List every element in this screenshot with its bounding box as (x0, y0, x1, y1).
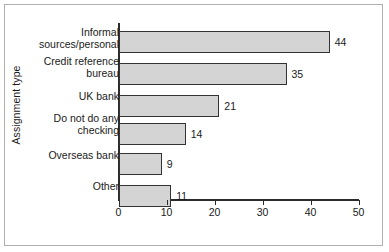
x-axis-tick-label: 40 (296, 206, 326, 218)
bar (119, 63, 287, 85)
bar-value-label: 35 (292, 63, 304, 85)
bar (119, 153, 162, 175)
x-axis-tick-label: 30 (248, 206, 278, 218)
bar-value-label: 14 (191, 123, 203, 145)
x-axis-tick (263, 200, 264, 205)
category-label: Overseas bank (9, 150, 119, 162)
bar (119, 95, 220, 117)
bar (119, 31, 330, 53)
bar (119, 185, 172, 207)
x-axis-tick-label: 20 (200, 206, 230, 218)
x-axis-tick (311, 200, 312, 205)
x-axis-tick-label: 50 (344, 206, 374, 218)
bar-value-label: 9 (167, 153, 173, 175)
x-axis-tick (215, 200, 216, 205)
category-label: UK bank (9, 91, 119, 103)
plot-area: Informal sources/personal 44 Credit refe… (5, 5, 384, 245)
bar-value-label: 21 (224, 95, 236, 117)
category-label: Informal sources/personal (9, 27, 119, 50)
bar-value-label: 11 (176, 185, 187, 207)
category-label: Credit reference bureau (9, 56, 119, 79)
category-label: Do not do any checking (9, 113, 119, 136)
bar (119, 123, 186, 145)
x-axis-tick-label: 10 (152, 206, 182, 218)
chart-figure-frame: Assignment type Informal sources/persona… (4, 4, 383, 246)
x-axis-tick (119, 200, 120, 205)
x-axis-tick (359, 200, 360, 205)
bar-value-label: 44 (335, 31, 347, 53)
category-label: Other (9, 181, 119, 193)
x-axis-tick (167, 200, 168, 205)
x-axis-tick-label: 0 (104, 206, 134, 218)
